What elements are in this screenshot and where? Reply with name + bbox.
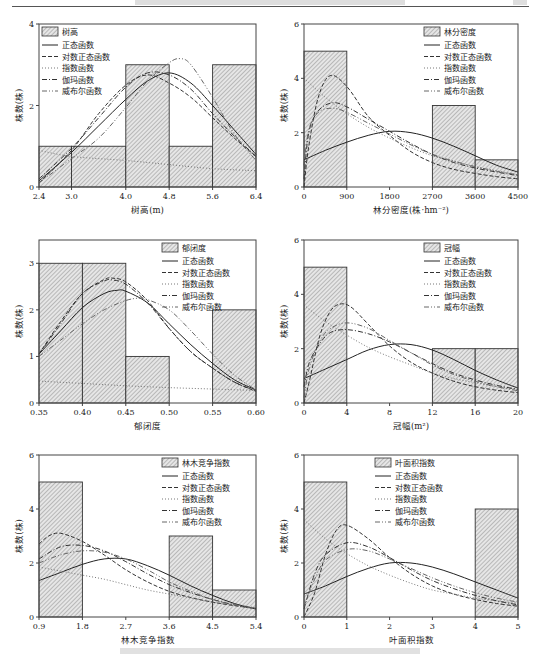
y-tick-label: 2	[29, 306, 34, 315]
x-axis-label: 树高(m)	[131, 205, 164, 215]
histogram-bar	[72, 146, 126, 187]
x-axis-label: 林木竞争指数	[121, 635, 175, 645]
y-tick-label: 6	[294, 20, 299, 29]
y-axis-label: 株数(株)	[14, 305, 24, 339]
legend-label: 冠幅	[444, 243, 460, 253]
y-tick-label: 4	[294, 290, 299, 299]
y-tick-label: 4	[29, 505, 34, 514]
x-tick-label: 0.50	[160, 408, 178, 417]
x-tick-label: 5.6	[206, 192, 219, 201]
y-tick-label: 3	[29, 259, 34, 268]
legend-label: 指数函数	[182, 494, 214, 504]
page-number-blurred	[513, 0, 527, 5]
legend-label: 对数正态函数	[182, 483, 230, 493]
legend-label: 威布尔函数	[182, 517, 222, 527]
x-tick-label: 0	[301, 408, 306, 417]
y-tick-label: 0	[29, 399, 34, 408]
legend-label: 威布尔函数	[444, 302, 484, 312]
x-tick-label: 3600	[465, 192, 485, 201]
x-tick-label: 0.55	[204, 408, 222, 417]
histogram-bars	[304, 51, 518, 187]
y-tick-label: 6	[29, 451, 34, 460]
y-tick-label: 4	[294, 74, 299, 83]
y-tick-label: 2	[294, 559, 299, 568]
chart-svg: 0123450246叶面积指数株数(株)叶面积指数正态函数对数正态函数指数函数伽…	[270, 444, 540, 656]
y-tick-label: 2	[294, 129, 299, 138]
x-tick-label: 4	[473, 622, 478, 631]
y-tick-label: 2	[29, 559, 34, 568]
y-tick-label: 2	[29, 102, 34, 111]
chart-crown-width: 0481216200246冠幅(m²)株数(株)冠幅正态函数对数正态函数指数函数…	[270, 229, 540, 445]
chart-competition-index: 0.91.82.73.64.55.40246林木竞争指数株数(株)林木竞争指数正…	[0, 444, 270, 660]
legend-label: 对数正态函数	[444, 268, 492, 278]
legend-label: 伽玛函数	[444, 75, 476, 85]
y-tick-label: 1	[29, 352, 34, 361]
x-tick-label: 3.0	[65, 192, 78, 201]
legend-label: 指数函数	[444, 279, 476, 289]
histogram-bar	[169, 146, 212, 187]
histogram-bar	[432, 349, 475, 403]
x-tick-label: 1	[344, 622, 349, 631]
x-tick-label: 3	[430, 622, 435, 631]
y-tick-label: 0	[29, 183, 34, 192]
x-tick-label: 0.9	[33, 622, 46, 631]
x-tick-label: 2.7	[119, 622, 132, 631]
x-tick-label: 12	[427, 408, 437, 417]
page-header-rule	[12, 6, 529, 7]
histogram-bar	[213, 65, 256, 187]
legend-label: 对数正态函数	[395, 483, 443, 493]
y-tick-label: 6	[294, 451, 299, 460]
chart-tree-height: 2.43.04.04.85.66.4024树高(m)株数(株)树高正态函数对数正…	[0, 14, 270, 230]
histogram-bar	[126, 65, 169, 187]
x-tick-label: 4.0	[119, 192, 132, 201]
legend-label: 正态函数	[182, 256, 214, 266]
chart-leaf-area-index: 0123450246叶面积指数株数(株)叶面积指数正态函数对数正态函数指数函数伽…	[270, 444, 540, 660]
histogram-bar	[169, 536, 212, 617]
x-axis-label: 郁闭度	[134, 421, 161, 431]
histogram-bar	[304, 482, 347, 617]
y-axis-label: 株数(株)	[14, 519, 24, 553]
x-tick-label: 4	[344, 408, 349, 417]
legend-swatch-histogram	[424, 243, 440, 252]
legend: 叶面积指数正态函数对数正态函数指数函数伽玛函数威布尔函数	[375, 458, 443, 527]
legend-label: 林分密度	[444, 27, 476, 37]
y-tick-label: 0	[29, 613, 34, 622]
legend: 郁闭度正态函数对数正态函数指数函数伽玛函数威布尔函数	[162, 243, 230, 312]
x-tick-label: 1.8	[76, 622, 89, 631]
x-tick-label: 8	[387, 408, 392, 417]
x-tick-label: 0.40	[73, 408, 91, 417]
x-tick-label: 2	[387, 622, 392, 631]
legend-label: 对数正态函数	[62, 52, 110, 62]
y-axis-label: 株数(株)	[279, 519, 289, 553]
x-tick-label: 20	[513, 408, 523, 417]
legend-label: 叶面积指数	[395, 458, 435, 468]
x-tick-label: 2700	[422, 192, 442, 201]
legend-swatch-histogram	[162, 243, 178, 252]
x-tick-label: 16	[470, 408, 480, 417]
y-tick-label: 4	[294, 505, 299, 514]
chart-svg: 0.91.82.73.64.55.40246林木竞争指数株数(株)林木竞争指数正…	[0, 444, 270, 656]
legend-label: 林木竞争指数	[182, 458, 230, 468]
legend-label: 正态函数	[62, 40, 94, 50]
page-header-text-blurred	[135, 0, 405, 5]
legend-label: 正态函数	[395, 471, 427, 481]
histogram-bars	[39, 482, 256, 617]
legend-label: 伽玛函数	[182, 506, 214, 516]
y-axis-label: 株数(株)	[279, 305, 289, 339]
x-tick-label: 1800	[379, 192, 399, 201]
legend-swatch-histogram	[162, 458, 178, 467]
x-tick-label: 0.35	[30, 408, 48, 417]
legend-label: 威布尔函数	[62, 86, 102, 96]
y-tick-label: 4	[29, 20, 34, 29]
y-tick-label: 6	[294, 236, 299, 245]
histogram-bars	[39, 263, 256, 403]
x-tick-label: 0.60	[247, 408, 265, 417]
y-axis-label: 株数(株)	[14, 89, 24, 123]
legend-label: 威布尔函数	[444, 86, 484, 96]
legend-label: 指数函数	[62, 63, 94, 73]
chart-svg: 0.350.400.450.500.550.600123郁闭度株数(株)郁闭度正…	[0, 229, 270, 441]
legend-label: 威布尔函数	[182, 302, 222, 312]
legend: 林分密度正态函数对数正态函数指数函数伽玛函数威布尔函数	[424, 27, 492, 96]
x-tick-label: 4.8	[163, 192, 176, 201]
y-tick-label: 0	[294, 399, 299, 408]
